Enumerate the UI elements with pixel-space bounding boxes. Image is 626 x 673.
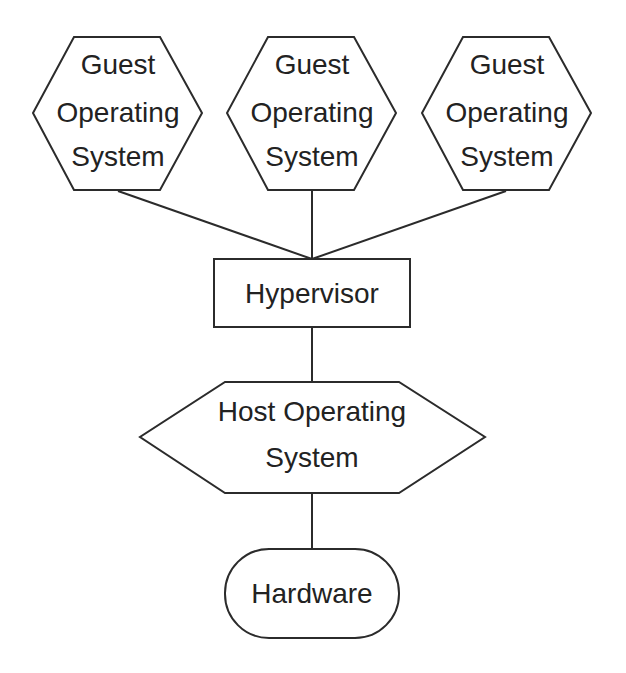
node-label: Hardware [251, 578, 372, 609]
node-label-line: Guest [81, 49, 156, 80]
node-host-os[interactable]: Host Operating System [140, 382, 485, 493]
node-label-line: Operating [57, 97, 180, 128]
node-label-line: System [265, 141, 358, 172]
node-label-line: Operating [251, 97, 374, 128]
virtualization-diagram: Guest Operating System Guest Operating S… [0, 0, 626, 673]
node-label-line: System [265, 442, 358, 473]
node-label-line: Guest [470, 49, 545, 80]
node-label: Hypervisor [245, 278, 379, 309]
node-hardware[interactable]: Hardware [225, 549, 399, 638]
node-guest-os-3[interactable]: Guest Operating System [422, 37, 591, 190]
node-guest-os-1[interactable]: Guest Operating System [33, 37, 202, 190]
edge-guest1-hypervisor [118, 191, 312, 259]
node-label-line: System [460, 141, 553, 172]
node-label-line: Guest [275, 49, 350, 80]
node-hypervisor[interactable]: Hypervisor [214, 259, 410, 327]
node-label-line: Host Operating [218, 396, 406, 427]
edge-guest3-hypervisor [312, 191, 506, 259]
node-label-line: System [71, 141, 164, 172]
node-guest-os-2[interactable]: Guest Operating System [227, 37, 396, 190]
node-label-line: Operating [446, 97, 569, 128]
